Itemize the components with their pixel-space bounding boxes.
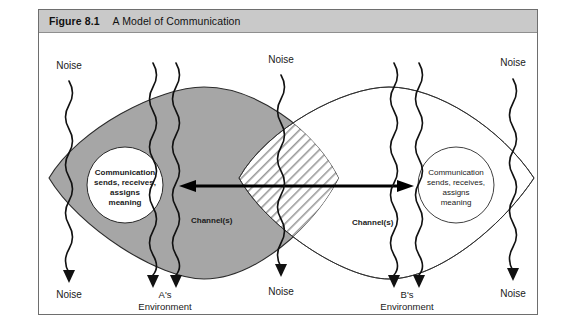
diagram-canvas: Communication sends, receives, assigns m… <box>39 33 537 314</box>
env-label-b-line-1: B's <box>401 289 414 300</box>
channel-label-b: Channel(s) <box>352 218 394 227</box>
noise-label-bottom-center: Noise <box>268 286 294 297</box>
communication-model-svg: Communication sends, receives, assigns m… <box>39 33 537 314</box>
person-b-circle-line-4: meaning <box>441 198 472 207</box>
noise-label-bottom-left: Noise <box>56 289 82 300</box>
noise-label-bottom-right: Noise <box>500 288 526 299</box>
noise-label-top-center: Noise <box>268 54 294 65</box>
noise-label-top-right: Noise <box>500 57 526 68</box>
person-b-circle-line-3: assigns <box>442 188 469 197</box>
noise-label-top-left: Noise <box>56 60 82 71</box>
person-a-circle-line-3: assigns <box>110 188 140 197</box>
env-label-a-line-1: A's <box>159 289 172 300</box>
noise-arrowheads <box>63 264 519 288</box>
env-label-a-line-2: Environment <box>138 301 192 312</box>
figure-frame: Figure 8.1 A Model of Communication <box>38 9 538 315</box>
person-a-circle-line-4: meaning <box>109 198 142 207</box>
person-a-circle-line-2: sends, receives, <box>94 178 156 187</box>
person-b-circle-line-1: Communication <box>428 168 484 177</box>
figure-title: A Model of Communication <box>113 15 241 27</box>
env-label-b-line-2: Environment <box>380 301 434 312</box>
channel-label-a: Channel(s) <box>191 216 233 225</box>
person-a-circle-line-1: Communication <box>95 168 156 177</box>
figure-page: Figure 8.1 A Model of Communication <box>0 0 576 327</box>
person-b-circle-line-2: sends, receives, <box>427 178 485 187</box>
figure-title-bar: Figure 8.1 A Model of Communication <box>39 10 537 33</box>
figure-number: Figure 8.1 <box>49 15 100 27</box>
